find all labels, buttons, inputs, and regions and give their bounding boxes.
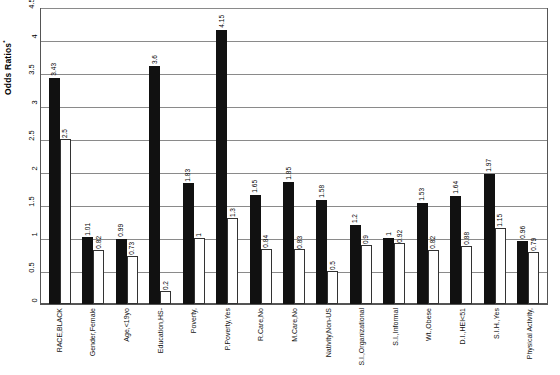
plot-area: 3.432.51.010.820.990.733.60.21.8314.151.… [40, 8, 548, 305]
bar-value-label: 0.73 [129, 242, 136, 255]
x-axis-tick-cell: R.Care,No [244, 308, 278, 374]
y-axis-tick: 0 [0, 296, 36, 305]
y-axis-tick: 3 [0, 98, 36, 107]
bar-unadjusted[interactable]: 1.01 [82, 237, 93, 304]
bar-unadjusted[interactable]: 1 [383, 238, 394, 304]
bar-value-label: 1 [196, 233, 203, 237]
bar-group: 1.010.82 [76, 9, 109, 304]
bar-adjusted[interactable]: 1.3 [227, 218, 238, 304]
bar-adjusted[interactable]: 0.82 [428, 250, 439, 304]
bar-adjusted[interactable]: 0.92 [394, 243, 405, 304]
bar-value-label: 4.15 [218, 15, 225, 28]
x-axis-tick-cell: P.Poverty,Yes [210, 308, 244, 374]
bar-value-label: 1.53 [419, 188, 426, 201]
bar-unadjusted[interactable]: 4.15 [216, 30, 227, 304]
bar-unadjusted[interactable]: 1.83 [183, 183, 194, 304]
x-axis-tick-label: S.I.,Informal [391, 308, 398, 346]
bar-adjusted[interactable]: 0.73 [127, 256, 138, 304]
y-axis-tick-text: 4.5 [26, 0, 35, 9]
bar-unadjusted[interactable]: 1.64 [450, 196, 461, 304]
bar-adjusted[interactable]: 0.5 [327, 271, 338, 304]
y-axis-tick: 4.5 [0, 0, 36, 8]
x-axis-tick-cell: Physical Activity, [512, 308, 546, 374]
y-axis-tick: 1.5 [0, 197, 36, 206]
x-axis-tick-cell: S.I.H.,Yes [479, 308, 513, 374]
bar-group: 1.20.9 [344, 9, 377, 304]
y-axis-tick: 2.5 [0, 131, 36, 140]
x-axis-tick-label: Education,HS- [156, 308, 163, 353]
x-axis-tick-label: Nativity,Non-US [324, 308, 331, 357]
bar-adjusted[interactable]: 0.84 [261, 249, 272, 304]
x-axis-tick-label: M.Care,No [290, 308, 297, 342]
bar-value-label: 0.5 [330, 261, 337, 270]
x-axis-tick-label: Poverty, [190, 308, 197, 333]
x-axis-tick-label: S.I.,Organizational [358, 308, 365, 366]
bar-group: 10.92 [378, 9, 411, 304]
bar-adjusted[interactable]: 1 [194, 238, 205, 304]
y-axis-tick-text: 1 [29, 232, 38, 236]
y-axis-tick-text: 0 [29, 298, 38, 302]
bar-group: 1.971.15 [478, 9, 511, 304]
y-axis-tick-text: 3.5 [26, 64, 35, 74]
bar-value-label: 1.15 [497, 214, 504, 227]
bar-unadjusted[interactable]: 1.85 [283, 182, 294, 304]
y-axis-tick: 3.5 [0, 65, 36, 74]
y-axis-tick-text: 2.5 [26, 130, 35, 140]
bar-adjusted[interactable]: 0.2 [160, 291, 171, 304]
x-axis-tick-label: RACE,BLACK [55, 308, 62, 352]
bar-value-label: 0.9 [363, 235, 370, 244]
bar-group: 1.530.82 [411, 9, 444, 304]
bar-value-label: 1.64 [453, 181, 460, 194]
bar-value-label: 0.82 [430, 236, 437, 249]
bar-group: 0.990.73 [110, 9, 143, 304]
bar-unadjusted[interactable]: 1.2 [350, 225, 361, 304]
bar-value-label: 0.99 [118, 224, 125, 237]
bar-value-label: 0.2 [162, 281, 169, 290]
bar-unadjusted[interactable]: 1.53 [417, 203, 428, 304]
bar-value-label: 1 [386, 232, 393, 236]
bar-value-label: 1.01 [84, 223, 91, 236]
bar-unadjusted[interactable]: 1.65 [250, 195, 261, 304]
x-axis-tick-cell: M.Care,No [277, 308, 311, 374]
bar-value-label: 3.43 [51, 63, 58, 76]
y-axis-tick: 2 [0, 164, 36, 173]
x-axis-tick-label: Physical Activity, [526, 308, 533, 359]
bar-group: 4.151.3 [210, 9, 243, 304]
bar-unadjusted[interactable]: 0.99 [116, 239, 127, 304]
bar-adjusted[interactable]: 1.15 [495, 228, 506, 304]
y-axis-tick-text: 2 [29, 166, 38, 170]
bar-group: 1.650.84 [244, 9, 277, 304]
bar-value-label: 0.82 [95, 236, 102, 249]
x-axis-tick-cell: D.I.,HEI<51 [445, 308, 479, 374]
x-axis-tick-cell: Age,<19yo [109, 308, 143, 374]
x-axis-tick-label: D.I.,HEI<51 [458, 308, 465, 344]
bar-adjusted[interactable]: 0.88 [461, 246, 472, 304]
x-axis-tick-cell: RACE,BLACK [42, 308, 76, 374]
x-axis-tick-cell: Poverty, [176, 308, 210, 374]
bar-unadjusted[interactable]: 3.6 [149, 66, 160, 304]
x-axis-tick-label: R.Care,No [257, 308, 264, 341]
y-axis-tick: 1 [0, 230, 36, 239]
bar-value-label: 1.58 [319, 185, 326, 198]
bar-adjusted[interactable]: 0.79 [528, 252, 539, 304]
x-axis-tick-cell: Nativity,Non-US [311, 308, 345, 374]
bar-groups: 3.432.51.010.820.990.733.60.21.8314.151.… [41, 9, 547, 304]
bar-group: 1.640.88 [445, 9, 478, 304]
bar-group: 1.850.83 [277, 9, 310, 304]
bar-adjusted[interactable]: 2.5 [60, 139, 71, 304]
x-axis-tick-label: S.I.H.,Yes [492, 308, 499, 339]
bar-adjusted[interactable]: 0.83 [294, 249, 305, 304]
bar-adjusted[interactable]: 0.9 [361, 245, 372, 304]
bar-group: 1.580.5 [311, 9, 344, 304]
y-axis-tick-text: 4 [29, 34, 38, 38]
bar-adjusted[interactable]: 0.82 [93, 250, 104, 304]
bar-unadjusted[interactable]: 3.43 [49, 78, 60, 304]
bar-group: 1.831 [177, 9, 210, 304]
bar-value-label: 1.3 [229, 208, 236, 217]
bar-unadjusted[interactable]: 1.58 [316, 200, 327, 304]
bar-unadjusted[interactable]: 0.96 [517, 241, 528, 304]
bar-value-label: 0.96 [520, 226, 527, 239]
x-axis-tick-labels: RACE,BLACKGender,FemaleAge,<19yoEducatio… [40, 308, 548, 374]
bar-value-label: 1.83 [185, 169, 192, 182]
bar-unadjusted[interactable]: 1.97 [484, 174, 495, 304]
